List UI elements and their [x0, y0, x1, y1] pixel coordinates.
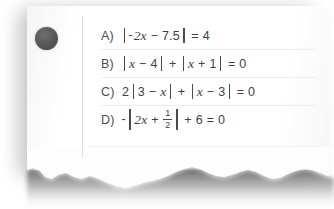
- answer-choice-d[interactable]: D) - 2x + 1 2 + 6 = 0: [101, 106, 316, 133]
- answer-choice-a[interactable]: A) - 2x − 7.5 = 4: [101, 22, 316, 50]
- choice-label-d: D): [101, 113, 115, 127]
- rhs-value-b: 0: [239, 57, 247, 71]
- plus-op-b: +: [165, 57, 179, 71]
- abs-group-b1: x − 4: [121, 56, 166, 72]
- equals-sign-a: =: [188, 29, 202, 43]
- equals-sign-d: =: [203, 113, 217, 127]
- plus-op-d1: +: [148, 113, 162, 127]
- choice-expression-c: 2 3 − x + x − 3 = 0: [122, 84, 256, 100]
- constant-3-c2: 3: [218, 85, 226, 99]
- coefficient-2-c: 2: [122, 85, 130, 99]
- constant-75-a: 7.5: [162, 29, 181, 43]
- constant-1-b2: 1: [209, 57, 217, 71]
- rhs-value-d: 0: [218, 113, 226, 127]
- abs-bar-left-icon: [133, 84, 135, 99]
- abs-bar-right-icon: [220, 56, 222, 71]
- choice-expression-b: x − 4 + x + 1 = 0: [121, 56, 247, 72]
- constant-6-d: 6: [195, 113, 203, 127]
- plus-op-c: +: [174, 85, 188, 99]
- choice-expression-d: - 2x + 1 2 + 6 = 0: [122, 109, 226, 130]
- term-2x-d: 2x: [134, 112, 148, 128]
- fraction-one-half: 1 2: [163, 109, 172, 130]
- answer-choice-b[interactable]: B) x − 4 + x + 1 = 0: [101, 50, 316, 78]
- hole-punch-icon: [35, 27, 58, 50]
- rhs-value-c: 0: [248, 85, 256, 99]
- abs-bar-left-icon: [124, 28, 126, 43]
- choice-label-c: C): [101, 85, 115, 99]
- negative-sign-a: -: [128, 28, 133, 42]
- negative-sign-d: -: [122, 112, 127, 126]
- abs-bar-left-icon: [129, 109, 131, 130]
- fraction-denominator: 2: [165, 120, 170, 130]
- plus-op-b2: +: [194, 57, 208, 71]
- abs-bar-right-icon: [176, 109, 178, 130]
- choice-label-b: B): [101, 57, 114, 71]
- abs-group-a: - 2x − 7.5: [121, 28, 188, 44]
- abs-bar-left-icon: [183, 56, 185, 71]
- answer-choices-list: A) - 2x − 7.5 = 4 B) x: [101, 22, 316, 133]
- variable-x-b1: x: [128, 56, 135, 72]
- abs-bar-left-icon: [192, 84, 194, 99]
- minus-op-a: −: [147, 29, 161, 43]
- fraction-numerator: 1: [165, 109, 170, 119]
- margin-rule-line: [82, 16, 83, 158]
- screenshot-stage: A) - 2x − 7.5 = 4 B) x: [0, 0, 334, 209]
- footer-rule-line: [89, 146, 316, 147]
- plus-op-d2: +: [181, 113, 195, 127]
- abs-bar-right-icon: [170, 84, 172, 99]
- variable-x-c1: x: [160, 84, 167, 100]
- equals-sign-c: =: [233, 85, 247, 99]
- abs-group-c2: x − 3: [189, 84, 234, 100]
- equals-sign-b: =: [224, 57, 238, 71]
- abs-group-d: 2x + 1 2: [126, 109, 180, 130]
- abs-group-c1: 3 − x: [130, 84, 175, 100]
- rhs-value-a: 4: [202, 29, 210, 43]
- choice-label-a: A): [101, 29, 114, 43]
- minus-op-b1: −: [136, 57, 150, 71]
- constant-3-c1: 3: [137, 85, 145, 99]
- abs-bar-right-icon: [229, 84, 231, 99]
- answer-choice-c[interactable]: C) 2 3 − x + x − 3 =: [101, 78, 316, 106]
- minus-op-c2: −: [203, 85, 217, 99]
- choice-expression-a: - 2x − 7.5 = 4: [121, 28, 210, 44]
- abs-bar-right-icon: [183, 28, 185, 43]
- variable-x-b2: x: [187, 56, 194, 72]
- constant-4-b1: 4: [150, 57, 158, 71]
- abs-bar-left-icon: [124, 56, 126, 71]
- abs-bar-right-icon: [161, 56, 163, 71]
- abs-group-b2: x + 1: [180, 56, 225, 72]
- minus-op-c1: −: [145, 85, 159, 99]
- term-2x-a: 2x: [133, 28, 147, 44]
- variable-x-c2: x: [196, 84, 203, 100]
